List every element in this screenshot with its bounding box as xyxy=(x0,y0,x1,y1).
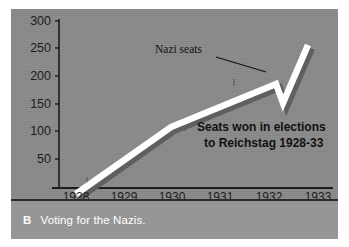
callout-line-2: to Reichstag 1928-33 xyxy=(204,136,324,150)
x-tick-label-1928: 1928 xyxy=(63,190,90,199)
line-chart: 300 250 200 150 100 50 xyxy=(11,9,338,199)
callout-line-1: Seats won in elections xyxy=(197,120,326,134)
caption-letter: B xyxy=(23,214,32,226)
y-tick-label-100: 100 xyxy=(30,124,51,138)
y-tick-label-50: 50 xyxy=(37,152,51,166)
x-tick-label-1930: 1930 xyxy=(159,190,186,199)
x-tick-label-1933: 1933 xyxy=(305,190,332,199)
chart-card: 300 250 200 150 100 50 xyxy=(11,9,338,237)
x-tick-label-1932: 1932 xyxy=(256,190,283,199)
y-tick-label-150: 150 xyxy=(30,97,51,111)
y-tick-label-300: 300 xyxy=(30,14,51,28)
x-tick-label-1931: 1931 xyxy=(207,190,234,199)
caption-text: Voting for the Nazis. xyxy=(41,214,146,226)
annotation-nazi-seats: Nazi seats xyxy=(155,43,202,55)
figure-root: 300 250 200 150 100 50 xyxy=(0,0,349,247)
x-tick-label-1929: 1929 xyxy=(111,190,138,199)
y-tick-label-250: 250 xyxy=(30,41,51,55)
y-tick-label-200: 200 xyxy=(30,69,51,83)
caption-bar: B Voting for the Nazis. xyxy=(11,199,338,239)
annotation-leader-line xyxy=(216,57,266,72)
plot-panel: 300 250 200 150 100 50 xyxy=(11,9,338,199)
